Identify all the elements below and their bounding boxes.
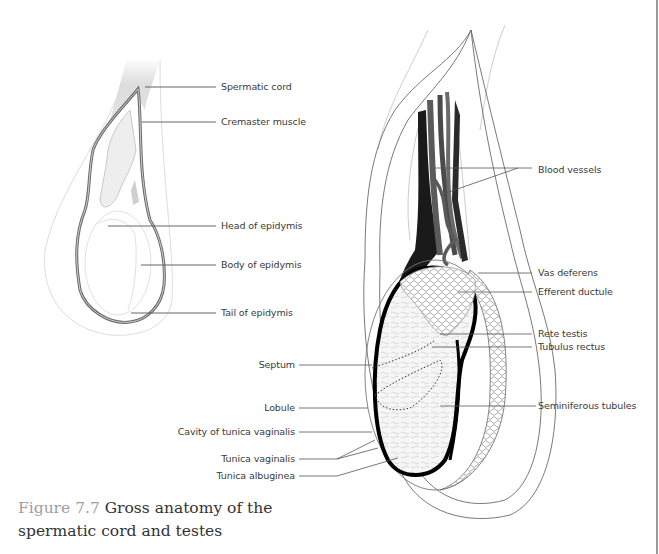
label-septum: Septum [259,359,295,371]
label-efferent-ductule: Efferent ductule [538,286,613,298]
label-vas-deferens: Vas deferens [538,267,598,279]
label-spermatic-cord: Spermatic cord [221,81,292,93]
label-tubulus-rectus: Tubulus rectus [538,341,605,353]
label-blood-vessels: Blood vessels [538,164,601,176]
label-tunica-albuginea: Tunica albuginea [217,470,295,482]
label-lobule: Lobule [264,402,295,414]
label-tunica-vaginalis: Tunica vaginalis [221,453,295,465]
figure-number: Figure 7.7 [18,499,100,517]
label-cremaster-muscle: Cremaster muscle [221,116,306,128]
figure-container: Spermatic cord Cremaster muscle Head of … [0,0,659,554]
left-diagram [44,58,216,335]
label-seminiferous-tubules: Seminiferous tubules [538,400,636,412]
label-head-of-epidymis: Head of epidymis [221,220,302,232]
label-tail-of-epidymis: Tail of epidymis [221,307,293,319]
label-body-of-epidymis: Body of epidymis [221,259,302,271]
label-cavity-of-tunica-vaginalis: Cavity of tunica vaginalis [178,426,295,438]
page-edge-divider [656,0,658,554]
label-rete-testis: Rete testis [538,328,587,340]
right-diagram [299,25,556,519]
figure-caption: Figure 7.7 Gross anatomy of the spermati… [18,497,348,543]
